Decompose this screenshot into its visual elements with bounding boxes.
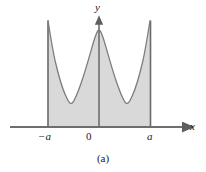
tick-label-negative-a: −a xyxy=(38,131,51,142)
figure-container: y x −a 0 a (a) xyxy=(0,0,206,172)
x-axis-label: x xyxy=(190,121,195,132)
tick-label-positive-a: a xyxy=(147,131,153,142)
plot-svg xyxy=(0,0,206,172)
figure-caption: (a) xyxy=(0,152,206,165)
tick-label-origin: 0 xyxy=(86,131,92,142)
y-axis-label: y xyxy=(95,2,100,13)
